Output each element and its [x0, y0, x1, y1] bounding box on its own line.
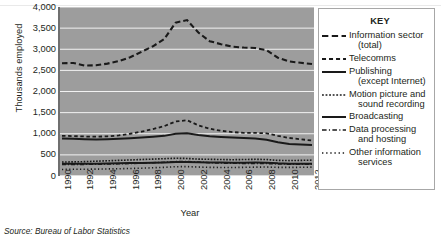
legend-label-continuation: sound recording — [349, 99, 426, 109]
source-caption: Source: Bureau of Labor Statistics — [4, 226, 130, 236]
legend-label: Broadcasting — [349, 111, 403, 121]
y-tick-label: 500 — [40, 150, 56, 159]
legend-label: Telecomms — [349, 53, 396, 63]
legend-label-continuation: services — [349, 157, 421, 167]
y-tick-label: 2,500 — [33, 66, 56, 75]
top-edge-rule — [0, 5, 441, 6]
x-tick-label: 2008 — [268, 169, 277, 190]
legend-entry: Telecomms — [322, 53, 430, 63]
legend-entry: Information sector(total) — [322, 30, 430, 50]
y-tick-label: 3,500 — [33, 24, 56, 33]
legend-label: Publishing(except Internet) — [349, 66, 426, 86]
x-tick-label: 2004 — [223, 169, 232, 190]
x-tick-label: 1996 — [132, 169, 141, 190]
legend-label-continuation: (total) — [349, 40, 423, 50]
x-axis-title: Year — [150, 208, 230, 218]
x-tick-label: 2010 — [291, 169, 300, 190]
legend-entry: Publishing(except Internet) — [322, 66, 430, 86]
y-tick-label: 2,000 — [33, 87, 56, 96]
x-tick-label: 1998 — [154, 169, 163, 190]
series-line — [62, 20, 312, 65]
legend-line-sample — [322, 31, 346, 40]
legend-entry: Broadcasting — [322, 111, 430, 121]
x-tick-label: 2006 — [245, 169, 254, 190]
legend-entry: Motion picture andsound recording — [322, 89, 430, 109]
y-axis-tick-labels: 4,0003,5003,0002,5002,0001,5001,0005000 — [6, 0, 56, 182]
legend-label: Motion picture andsound recording — [349, 89, 426, 109]
y-tick-label: 0 — [51, 172, 56, 181]
legend-line-sample — [322, 125, 346, 134]
x-tick-label: 1992 — [86, 169, 95, 190]
y-tick-label: 1,500 — [33, 108, 56, 117]
y-tick-label: 4,000 — [33, 3, 56, 12]
plot-area — [58, 7, 312, 176]
y-tick-label: 3,000 — [33, 45, 56, 54]
x-tick-label: 2000 — [177, 169, 186, 190]
legend-entry: Other informationservices — [322, 147, 430, 167]
series-lines — [60, 7, 314, 176]
chart-legend: KEY Information sector(total)TelecommsPu… — [318, 8, 435, 190]
plot-canvas — [58, 7, 314, 176]
x-tick-label: 1994 — [109, 169, 118, 190]
x-axis-tick-labels: 1990199219941996199820002002200420062008… — [58, 178, 312, 208]
legend-label: Other informationservices — [349, 147, 421, 167]
legend-label: Information sector(total) — [349, 30, 423, 50]
legend-line-sample — [322, 112, 346, 121]
x-tick-label: 1990 — [64, 169, 73, 190]
legend-line-sample — [322, 67, 346, 76]
legend-line-sample — [322, 54, 346, 63]
legend-entries: Information sector(total)TelecommsPublis… — [322, 30, 430, 167]
legend-label-continuation: and hosting — [349, 134, 416, 144]
legend-line-sample — [322, 148, 346, 157]
legend-title: KEY — [330, 16, 430, 26]
chart-figure: Thousands employed 4,0003,5003,0002,5002… — [0, 0, 441, 243]
legend-entry: Data processingand hosting — [322, 124, 430, 144]
legend-label: Data processingand hosting — [349, 124, 416, 144]
series-line — [62, 120, 312, 140]
legend-label-continuation: (except Internet) — [349, 76, 426, 86]
legend-line-sample — [322, 90, 346, 99]
y-tick-label: 1,000 — [33, 129, 56, 138]
x-tick-label: 2002 — [200, 169, 209, 190]
